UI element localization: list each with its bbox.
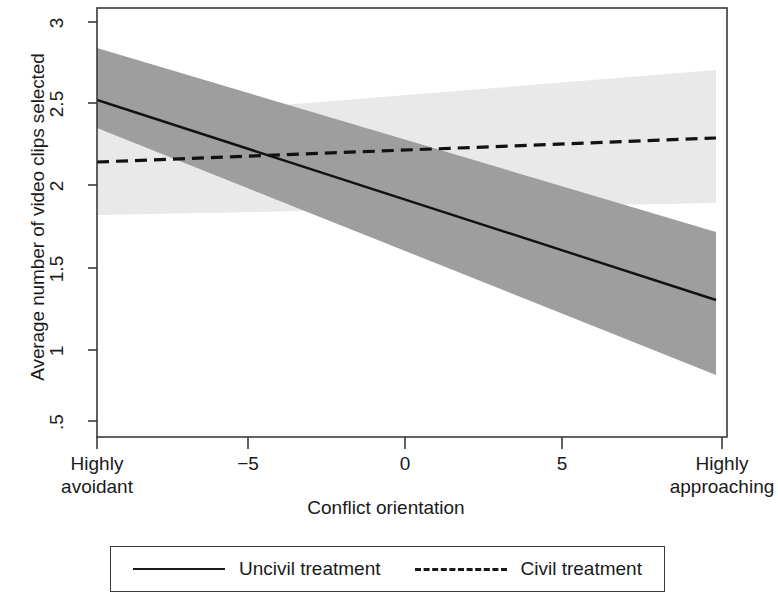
legend-label-civil: Civil treatment <box>521 558 642 580</box>
x-tick-label-line-1: Highly <box>642 452 778 475</box>
dashed-line-swatch-icon <box>415 568 507 571</box>
y-tick-label-2: 2 <box>46 156 68 216</box>
x-tick-label-5: 5 <box>512 452 612 475</box>
legend-entry-civil: Civil treatment <box>415 558 642 580</box>
legend-entry-uncivil: Uncivil treatment <box>133 558 381 580</box>
chart-legend: Uncivil treatment Civil treatment <box>110 546 665 592</box>
x-tick-label-minus5: −5 <box>198 452 298 475</box>
x-tick-label-line-1: Highly <box>27 452 167 475</box>
y-axis-ticks <box>88 22 97 421</box>
y-tick-label-1point5: 1.5 <box>46 239 68 299</box>
y-tick-label-point5: .5 <box>46 392 68 452</box>
y-tick-label-3: 3 <box>46 0 68 53</box>
x-axis-ticks <box>97 437 722 449</box>
solid-line-swatch-icon <box>133 568 225 570</box>
y-tick-label-2point5: 2.5 <box>46 74 68 134</box>
x-tick-label-highly-avoidant: Highly avoidant <box>27 452 167 498</box>
x-tick-label-line-2: avoidant <box>27 475 167 498</box>
x-tick-label-line-2: approaching <box>642 475 778 498</box>
legend-label-uncivil: Uncivil treatment <box>239 558 381 580</box>
x-tick-label-0: 0 <box>355 452 455 475</box>
x-tick-label-highly-approaching: Highly approaching <box>642 452 778 498</box>
x-axis-title: Conflict orientation <box>0 497 772 519</box>
y-tick-label-1: 1 <box>46 321 68 381</box>
